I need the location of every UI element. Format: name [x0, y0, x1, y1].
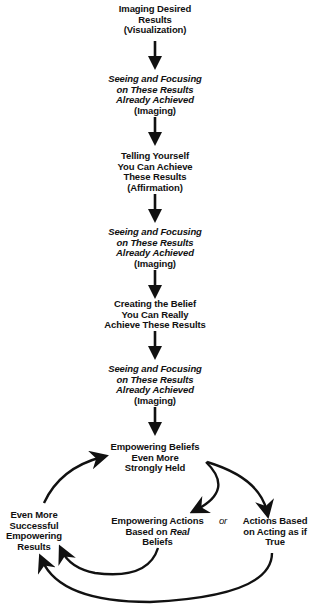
- node-line: Seeing and Focusing: [90, 74, 220, 85]
- curved-arrow-icon: [62, 548, 158, 574]
- down-arrow-icon: [148, 407, 162, 436]
- node-empowering-beliefs: Empowering Beliefs Even More Strongly He…: [95, 442, 215, 474]
- node-line: True: [235, 537, 315, 548]
- node-line: Seeing and Focusing: [90, 227, 220, 238]
- node-line: Already Achieved: [90, 385, 220, 396]
- node-line: Already Achieved: [90, 248, 220, 259]
- node-line: (Affirmation): [90, 183, 220, 194]
- down-arrow-icon: [148, 331, 162, 360]
- node-line-part: Based on: [125, 526, 170, 537]
- node-line: Already Achieved: [90, 95, 220, 106]
- node-line: Even More: [4, 510, 64, 521]
- node-line: (Imaging): [90, 106, 220, 117]
- down-arrow-icon: [148, 41, 162, 70]
- node-line: (Imaging): [90, 396, 220, 407]
- node-seeing-focusing-2: Seeing and Focusing on These Results Alr…: [90, 227, 220, 269]
- connector-or-label: or: [216, 516, 230, 527]
- node-even-more-successful: Even More Successful Empowering Results: [4, 510, 64, 552]
- curved-arrow-icon: [42, 553, 272, 602]
- node-telling-yourself: Telling Yourself You Can Achieve These R…: [90, 151, 220, 193]
- node-seeing-focusing-3: Seeing and Focusing on These Results Alr…: [90, 364, 220, 406]
- node-line: Results: [4, 542, 64, 553]
- node-line: Actions Based: [235, 516, 315, 527]
- node-creating-the-belief: Creating the Belief You Can Really Achie…: [80, 299, 230, 331]
- down-arrow-icon: [148, 194, 162, 223]
- node-line-emphasis: Real: [170, 526, 190, 537]
- node-line: Imaging Desired: [95, 4, 215, 15]
- curved-arrow-icon: [44, 457, 102, 503]
- node-line: Seeing and Focusing: [90, 364, 220, 375]
- node-imaging-desired-results: Imaging Desired Results (Visualization): [95, 4, 215, 36]
- node-line: Creating the Belief: [80, 299, 230, 310]
- node-seeing-focusing-1: Seeing and Focusing on These Results Alr…: [90, 74, 220, 116]
- node-line: Empowering: [4, 531, 64, 542]
- node-line: Achieve These Results: [80, 320, 230, 331]
- node-line: Strongly Held: [95, 463, 215, 474]
- node-line: (Visualization): [95, 25, 215, 36]
- curved-arrow-icon: [207, 462, 267, 512]
- node-actions-acting-as-if: Actions Based on Acting as if True: [235, 516, 315, 548]
- down-arrow-icon: [148, 117, 162, 146]
- node-line: Beliefs: [100, 537, 215, 548]
- node-line: (Imaging): [90, 259, 220, 270]
- node-line: These Results: [90, 172, 220, 183]
- node-line: Empowering Beliefs: [95, 442, 215, 453]
- down-arrow-icon: [148, 270, 162, 299]
- node-empowering-actions: Empowering Actions Based on Real Beliefs: [100, 516, 215, 548]
- node-line: Telling Yourself: [90, 151, 220, 162]
